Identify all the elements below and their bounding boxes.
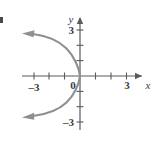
x-axis-label: x	[145, 79, 151, 91]
parabola-lower-arrowhead	[22, 113, 34, 120]
y-axis-arrow	[77, 17, 83, 24]
parabola-upper-arrowhead	[22, 30, 35, 37]
graph-figure: y x 3 –3 –3 3 0	[0, 0, 160, 147]
parabola-curve	[22, 30, 80, 120]
x-axis-arrow	[135, 73, 142, 79]
y-tick-label-3: 3	[69, 24, 75, 36]
x-tick-label-3: 3	[124, 79, 130, 91]
coordinate-plane: y x 3 –3 –3 3 0	[0, 0, 160, 147]
parabola-upper-branch	[33, 34, 80, 76]
origin-label: 0	[70, 79, 76, 91]
x-tick-label--3: –3	[28, 81, 41, 93]
y-tick-label--3: –3	[62, 116, 75, 128]
